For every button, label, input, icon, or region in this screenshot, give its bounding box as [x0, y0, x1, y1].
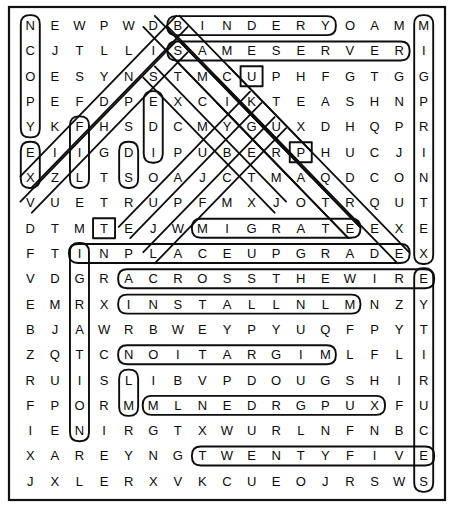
grid-cell[interactable]: L	[125, 373, 132, 388]
grid-cell[interactable]: T	[174, 423, 182, 438]
grid-cell[interactable]: T	[198, 347, 206, 362]
grid-cell[interactable]: U	[149, 195, 158, 210]
grid-cell[interactable]: E	[272, 18, 281, 33]
grid-cell[interactable]: C	[370, 145, 379, 160]
grid-cell[interactable]: I	[422, 145, 426, 160]
grid-cell[interactable]: L	[322, 297, 329, 312]
grid-cell[interactable]: C	[419, 423, 428, 438]
grid-cell[interactable]: S	[346, 373, 355, 388]
grid-cell[interactable]: S	[173, 43, 182, 58]
grid-cell[interactable]: X	[296, 119, 305, 134]
grid-cell[interactable]: I	[225, 221, 229, 236]
grid-cell[interactable]: E	[296, 94, 305, 109]
grid-cell[interactable]: E	[223, 398, 232, 413]
grid-cell[interactable]: C	[370, 170, 379, 185]
grid-cell[interactable]: N	[296, 297, 305, 312]
grid-cell[interactable]: Y	[419, 297, 428, 312]
grid-cell[interactable]: P	[124, 246, 133, 261]
grid-cell[interactable]: R	[124, 423, 133, 438]
grid-cell[interactable]: C	[198, 94, 207, 109]
grid-cell[interactable]: O	[296, 474, 306, 489]
grid-cell[interactable]: L	[125, 43, 132, 58]
grid-cell[interactable]: Q	[50, 347, 60, 362]
grid-cell[interactable]: O	[271, 373, 281, 388]
grid-cell[interactable]: X	[395, 221, 404, 236]
grid-cell[interactable]: U	[50, 373, 59, 388]
grid-cell[interactable]: F	[75, 94, 83, 109]
grid-cell[interactable]: F	[371, 347, 379, 362]
grid-cell[interactable]: E	[419, 448, 428, 463]
grid-cell[interactable]: J	[52, 43, 59, 58]
grid-cell[interactable]: U	[419, 398, 428, 413]
grid-cell[interactable]: R	[394, 271, 403, 286]
grid-cell[interactable]: T	[420, 322, 428, 337]
grid-cell[interactable]: M	[222, 195, 233, 210]
grid-cell[interactable]: H	[321, 145, 330, 160]
grid-cell[interactable]: F	[346, 448, 354, 463]
grid-cell[interactable]: O	[148, 170, 158, 185]
grid-cell[interactable]: P	[124, 94, 133, 109]
grid-cell[interactable]: A	[173, 170, 182, 185]
grid-cell[interactable]: F	[198, 195, 206, 210]
grid-cell[interactable]: I	[78, 246, 82, 261]
grid-cell[interactable]: M	[345, 297, 356, 312]
grid-cell[interactable]: A	[198, 43, 207, 58]
grid-cell[interactable]: N	[321, 423, 330, 438]
grid-cell[interactable]: D	[26, 221, 35, 236]
grid-cell[interactable]: V	[395, 448, 404, 463]
grid-cell[interactable]: T	[174, 69, 182, 84]
grid-cell[interactable]: I	[201, 18, 205, 33]
grid-cell[interactable]: A	[173, 246, 182, 261]
grid-cell[interactable]: D	[321, 119, 330, 134]
grid-cell[interactable]: D	[124, 145, 133, 160]
grid-cell[interactable]: E	[51, 94, 60, 109]
grid-cell[interactable]: I	[225, 94, 229, 109]
grid-cell[interactable]: N	[26, 18, 35, 33]
grid-cell[interactable]: E	[198, 322, 207, 337]
grid-cell[interactable]: R	[173, 271, 182, 286]
grid-cell[interactable]: I	[53, 145, 57, 160]
grid-cell[interactable]: R	[247, 347, 256, 362]
grid-cell[interactable]: W	[221, 448, 234, 463]
grid-cell[interactable]: N	[99, 246, 108, 261]
grid-cell[interactable]: T	[198, 448, 206, 463]
grid-cell[interactable]: T	[100, 195, 108, 210]
grid-cell[interactable]: V	[26, 195, 35, 210]
grid-cell[interactable]: P	[51, 398, 60, 413]
grid-cell[interactable]: W	[221, 423, 234, 438]
grid-cell[interactable]: X	[198, 423, 207, 438]
grid-cell[interactable]: R	[75, 297, 84, 312]
grid-cell[interactable]: Q	[369, 195, 379, 210]
grid-cell[interactable]: R	[75, 448, 84, 463]
grid-cell[interactable]: A	[296, 170, 305, 185]
grid-cell[interactable]: R	[321, 43, 330, 58]
grid-cell[interactable]: D	[247, 398, 256, 413]
grid-cell[interactable]: N	[149, 297, 158, 312]
grid-cell[interactable]: G	[296, 246, 306, 261]
grid-cell[interactable]: S	[370, 474, 379, 489]
grid-cell[interactable]: N	[149, 448, 158, 463]
grid-cell[interactable]: T	[75, 347, 83, 362]
grid-cell[interactable]: U	[296, 322, 305, 337]
grid-cell[interactable]: E	[51, 69, 60, 84]
grid-cell[interactable]: R	[271, 423, 280, 438]
grid-cell[interactable]: U	[271, 119, 280, 134]
grid-cell[interactable]: I	[102, 423, 106, 438]
grid-cell[interactable]: S	[149, 69, 158, 84]
grid-cell[interactable]: J	[322, 474, 329, 489]
grid-cell[interactable]: M	[74, 221, 85, 236]
grid-cell[interactable]: G	[247, 119, 257, 134]
grid-cell[interactable]: T	[321, 221, 329, 236]
grid-cell[interactable]: F	[346, 322, 354, 337]
grid-cell[interactable]: N	[75, 423, 84, 438]
grid-cell[interactable]: S	[223, 271, 232, 286]
grid-cell[interactable]: E	[223, 246, 232, 261]
grid-cell[interactable]: F	[26, 246, 34, 261]
grid-cell[interactable]: Z	[51, 170, 59, 185]
grid-cell[interactable]: B	[395, 423, 404, 438]
grid-cell[interactable]: Y	[321, 18, 330, 33]
grid-cell[interactable]: I	[127, 297, 131, 312]
grid-cell[interactable]: H	[370, 373, 379, 388]
grid-cell[interactable]: F	[26, 398, 34, 413]
grid-cell[interactable]: X	[247, 195, 256, 210]
